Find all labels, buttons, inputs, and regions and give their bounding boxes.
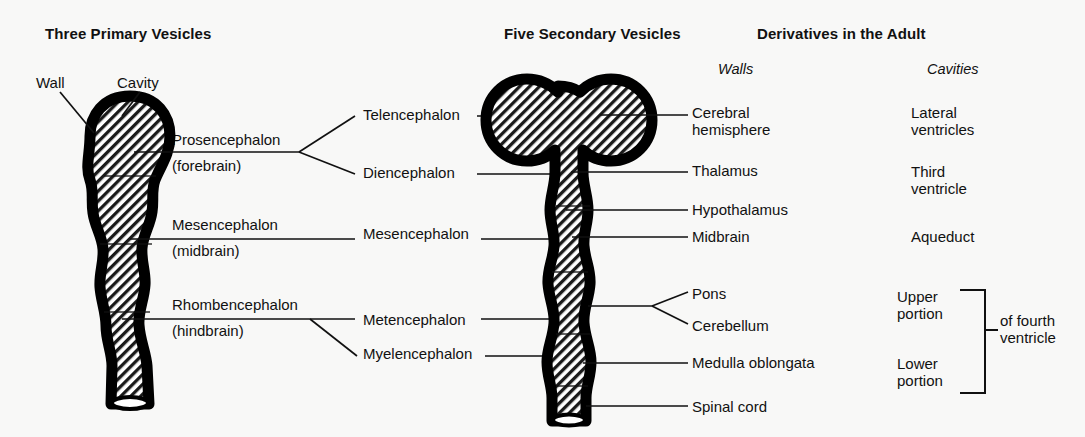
pointer-leader-lines [60,92,140,133]
cavity-derivative-third-ventricle-line2: ventricle [911,180,967,197]
cavity-derivative-third-ventricle-line1: Third [911,163,945,180]
wall-derivative-spinal-cord: Spinal cord [692,398,767,415]
column-header-derivatives: Derivatives in the Adult [757,25,926,42]
primary-vesicle-label-mesencephalon: Mesencephalon [172,216,278,233]
primary-vesicle-sublabel-hindbrain: (hindbrain) [172,322,244,339]
wall-derivative-connectors [566,115,688,406]
primary-vesicle-sublabel-midbrain: (midbrain) [172,242,240,259]
secondary-vesicle-label-telencephalon: Telencephalon [363,106,460,123]
bracket-label-of-fourth-ventricle-line1: of fourth [1000,312,1055,329]
diagram-canvas: Three Primary Vesicles Five Secondary Ve… [0,0,1085,437]
wall-derivative-medulla-oblongata: Medulla oblongata [692,354,815,371]
cavity-derivative-lower-portion-line2: portion [897,372,943,389]
cavity-derivative-upper-portion-line1: Upper [897,288,938,305]
cavity-derivative-lateral-ventricles-line2: ventricles [911,121,974,138]
primary-lumen-opening [112,397,148,409]
primary-vesicle-label-rhombencephalon: Rhombencephalon [172,296,298,313]
bracket-label-of-fourth-ventricle-line2: ventricle [1000,329,1056,346]
primary-vesicle-figure [88,96,170,409]
secondary-vesicle-label-myelencephalon: Myelencephalon [363,345,472,362]
subheader-cavities: Cavities [927,61,979,77]
wall-derivative-pons: Pons [692,285,726,302]
secondary-vesicle-label-diencephalon: Diencephalon [363,164,455,181]
wall-derivative-cerebral-hemisphere-line2: hemisphere [692,121,770,138]
column-header-primary-vesicles: Three Primary Vesicles [45,25,211,42]
cavity-derivative-lateral-ventricles-line1: Lateral [911,104,957,121]
primary-vesicle-connectors [122,116,357,356]
fourth-ventricle-bracket [961,290,997,393]
secondary-lumen-opening [553,415,585,426]
cavity-derivative-lower-portion-line1: Lower [897,355,938,372]
secondary-vesicle-figure [486,79,652,426]
secondary-vesicle-label-mesencephalon: Mesencephalon [363,225,469,242]
column-header-secondary-vesicles: Five Secondary Vesicles [504,25,681,42]
wall-derivative-cerebellum: Cerebellum [692,317,769,334]
secondary-vesicle-connectors [477,116,576,356]
cavity-derivative-aqueduct: Aqueduct [911,228,974,245]
wall-derivative-thalamus: Thalamus [692,162,758,179]
wall-derivative-hypothalamus: Hypothalamus [692,201,788,218]
secondary-vesicle-label-metencephalon: Metencephalon [363,311,466,328]
pointer-label-cavity: Cavity [117,74,159,91]
primary-vesicle-label-prosencephalon: Prosencephalon [172,131,280,148]
pointer-label-wall: Wall [36,74,65,91]
wall-derivative-cerebral-hemisphere-line1: Cerebral [692,104,750,121]
wall-derivative-midbrain: Midbrain [692,228,750,245]
primary-vesicle-sublabel-forebrain: (forebrain) [172,157,241,174]
subheader-walls: Walls [718,61,753,77]
cavity-derivative-upper-portion-line2: portion [897,305,943,322]
